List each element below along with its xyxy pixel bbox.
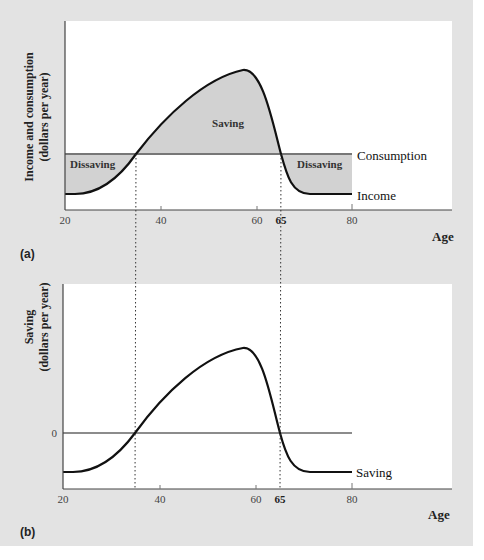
tick-label-65: 65 xyxy=(276,214,288,226)
panel-a-tag: (a) xyxy=(20,247,35,261)
tick-label: 40 xyxy=(155,493,167,505)
tick-label: 20 xyxy=(60,214,72,226)
dissaving-left-label: Dissaving xyxy=(70,158,116,170)
consumption-label: Consumption xyxy=(357,148,428,163)
tick-label: 20 xyxy=(58,493,70,505)
panel-b-tag: (b) xyxy=(20,525,35,539)
y-axis-label-b-line2: (dollars per year) xyxy=(37,282,51,371)
panel-a: 20 40 60 65 80 Saving Dissaving Dissavin… xyxy=(20,21,454,261)
tick-label-65: 65 xyxy=(275,493,287,505)
x-axis-label-a: Age xyxy=(432,229,454,244)
panel-b: 20 40 60 65 80 0 Saving Age Saving (doll… xyxy=(20,282,452,539)
figure: 20 40 60 65 80 Saving Dissaving Dissavin… xyxy=(0,0,484,560)
tick-label: 80 xyxy=(347,214,359,226)
y-axis-label-a-line2: (dollars per year) xyxy=(37,72,51,161)
x-axis-label-b: Age xyxy=(428,507,450,522)
y-axis-label-b-line1: Saving xyxy=(22,310,36,345)
tick-label: 40 xyxy=(156,214,168,226)
tick-label: 80 xyxy=(347,493,359,505)
tick-label: 60 xyxy=(252,214,264,226)
income-label: Income xyxy=(357,188,396,203)
plot-area-b xyxy=(63,284,452,489)
dissaving-right-label: Dissaving xyxy=(297,158,343,170)
tick-label: 60 xyxy=(251,493,263,505)
y-axis-label-a-line1: Income and consumption xyxy=(22,52,36,182)
zero-tick-label: 0 xyxy=(52,427,58,439)
saving-curve-label: Saving xyxy=(356,465,393,480)
saving-region-label: Saving xyxy=(212,117,244,129)
